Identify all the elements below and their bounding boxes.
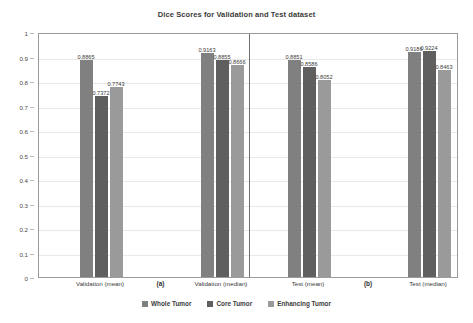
y-tick-label: 0.1 bbox=[19, 250, 28, 257]
chart-legend: Whole TumorCore TumorEnhancing Tumor bbox=[0, 300, 473, 307]
x-tick-label: Validation (median) bbox=[195, 280, 248, 287]
bar-value-label: 0.8865 bbox=[77, 54, 94, 60]
y-tick-mark bbox=[30, 278, 34, 279]
y-tick-mark bbox=[30, 229, 34, 230]
y-tick-mark bbox=[30, 33, 34, 34]
y-tick-label: 0 bbox=[25, 275, 28, 282]
bar-value-label: 0.7743 bbox=[107, 81, 124, 87]
gridline bbox=[39, 83, 457, 84]
y-tick-label: 1 bbox=[25, 30, 28, 37]
legend-item[interactable]: Core Tumor bbox=[207, 300, 252, 307]
y-tick-label: 0.3 bbox=[19, 201, 28, 208]
y-tick-label: 0.6 bbox=[19, 128, 28, 135]
bar-value-label: 0.8666 bbox=[228, 59, 245, 65]
bar bbox=[201, 53, 214, 277]
y-tick-label: 0.4 bbox=[19, 177, 28, 184]
bar bbox=[80, 60, 93, 277]
legend-label: Core Tumor bbox=[216, 300, 252, 307]
x-tick-label: Validation (mean) bbox=[76, 280, 124, 287]
bar bbox=[231, 65, 244, 277]
chart-title: Dice Scores for Validation and Test data… bbox=[0, 10, 473, 19]
bar-value-label: 0.8052 bbox=[315, 74, 332, 80]
y-tick-label: 0.8 bbox=[19, 79, 28, 86]
bar bbox=[438, 70, 451, 277]
y-tick-mark bbox=[30, 58, 34, 59]
bar bbox=[318, 80, 331, 277]
bar-value-label: 0.8586 bbox=[300, 61, 317, 67]
x-tick-label: Test (mean) bbox=[292, 280, 325, 287]
y-tick-mark bbox=[30, 254, 34, 255]
legend-swatch-icon bbox=[268, 301, 274, 307]
legend-swatch-icon bbox=[207, 301, 213, 307]
x-axis: Validation (mean)Validation (median)Test… bbox=[38, 280, 458, 296]
bar-value-label: 0.9163 bbox=[198, 47, 215, 53]
bar bbox=[110, 87, 123, 277]
y-tick-mark bbox=[30, 156, 34, 157]
legend-swatch-icon bbox=[142, 301, 148, 307]
legend-label: Enhancing Tumor bbox=[277, 300, 331, 307]
bar bbox=[408, 52, 421, 277]
gridline bbox=[39, 59, 457, 60]
y-tick-mark bbox=[30, 205, 34, 206]
bar bbox=[216, 60, 229, 277]
bar bbox=[288, 60, 301, 277]
plot-area: 0.88650.73720.77430.91630.88550.86660.88… bbox=[38, 33, 458, 278]
legend-label: Whole Tumor bbox=[151, 300, 191, 307]
legend-item[interactable]: Enhancing Tumor bbox=[268, 300, 331, 307]
x-tick-label: Test (median) bbox=[409, 280, 446, 287]
bar bbox=[95, 96, 108, 277]
y-tick-label: 0.7 bbox=[19, 103, 28, 110]
y-axis: 10.90.80.70.60.50.40.30.20.10 bbox=[0, 33, 34, 278]
y-tick-label: 0.2 bbox=[19, 226, 28, 233]
legend-item[interactable]: Whole Tumor bbox=[142, 300, 191, 307]
y-tick-label: 0.9 bbox=[19, 54, 28, 61]
bar bbox=[423, 51, 436, 277]
bar bbox=[303, 67, 316, 277]
panel-tag: (b) bbox=[364, 280, 372, 287]
bar-value-label: 0.9224 bbox=[420, 45, 437, 51]
y-tick-mark bbox=[30, 107, 34, 108]
panel-divider bbox=[249, 34, 250, 277]
y-tick-label: 0.5 bbox=[19, 152, 28, 159]
y-tick-mark bbox=[30, 180, 34, 181]
bar-value-label: 0.8463 bbox=[435, 64, 452, 70]
bar-value-label: 0.8851 bbox=[285, 54, 302, 60]
bar-value-label: 0.7372 bbox=[92, 90, 109, 96]
y-tick-mark bbox=[30, 131, 34, 132]
chart-figure: Dice Scores for Validation and Test data… bbox=[0, 0, 473, 323]
y-tick-mark bbox=[30, 82, 34, 83]
panel-tag: (a) bbox=[157, 280, 165, 287]
